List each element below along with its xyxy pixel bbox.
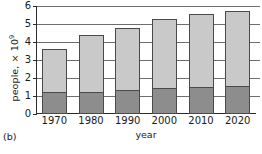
y-axis-tick-label: 6 (25, 1, 31, 11)
bar-1970 (42, 49, 67, 114)
y-axis-tick-mark-right (256, 6, 260, 7)
bar-segment-lower-1970 (43, 92, 66, 113)
y-axis-tick-mark (33, 24, 37, 25)
y-axis-tick-mark (33, 6, 37, 7)
y-axis-tick-label: 3 (25, 55, 31, 65)
y-axis-tick-label: 5 (25, 19, 31, 29)
y-axis-tick-mark (33, 96, 37, 97)
y-axis-tick-label: 0 (25, 109, 31, 119)
bar-2020 (225, 11, 250, 115)
bar-segment-lower-2020 (226, 86, 249, 113)
y-axis-exponent: 9 (8, 35, 16, 39)
x-axis-title: year (36, 129, 256, 140)
y-axis-tick-label: 4 (25, 37, 31, 47)
x-axis-tick-label-1990: 1990 (115, 116, 140, 126)
y-axis-tick-mark (33, 114, 37, 115)
y-axis-tick-mark (33, 60, 37, 61)
x-axis-tick-label-1970: 1970 (42, 116, 67, 126)
gridline (36, 6, 256, 7)
bar-segment-lower-2000 (153, 88, 176, 113)
y-axis-tick-mark-right (256, 42, 260, 43)
bar-2010 (189, 14, 214, 114)
y-axis-tick-mark (33, 42, 37, 43)
y-axis-tick-mark-right (256, 78, 260, 79)
gridline (36, 24, 256, 25)
y-axis-title-text: people, × 10 (9, 39, 20, 102)
y-axis-title: people, × 109 (8, 13, 20, 123)
x-axis-line (36, 113, 256, 114)
bar-segment-lower-2010 (190, 87, 213, 113)
bar-segment-lower-1990 (116, 90, 139, 113)
y-axis-tick-mark-right (256, 60, 260, 61)
panel-letter: (b) (3, 131, 16, 142)
x-axis-tick-label-2020: 2020 (225, 116, 250, 126)
x-axis-tick-label-2000: 2000 (152, 116, 177, 126)
bar-segment-lower-1980 (80, 92, 103, 113)
gridline (36, 42, 256, 43)
gridline (36, 60, 256, 61)
gridline (36, 78, 256, 79)
y-axis-tick-mark-right (256, 96, 260, 97)
bar-1980 (79, 35, 104, 114)
y-axis-tick-label: 2 (25, 73, 31, 83)
y-axis-tick-mark-right (256, 24, 260, 25)
bar-2000 (152, 19, 177, 114)
x-axis-tick-label-1980: 1980 (78, 116, 103, 126)
bar-1990 (115, 28, 140, 114)
x-axis-tick-label-2010: 2010 (188, 116, 213, 126)
figure-panel: people, × 109 0123456 197019801990200020… (0, 0, 262, 154)
gridline (36, 96, 256, 97)
plot-area: 0123456 197019801990200020102020 (36, 6, 256, 114)
y-axis-tick-label: 1 (25, 91, 31, 101)
y-axis-tick-mark (33, 78, 37, 79)
